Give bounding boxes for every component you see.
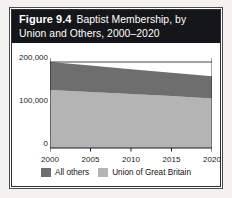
figure-inner-border: Figure 9.4Baptist Membership, by Union a… xyxy=(11,9,221,187)
figure-caption-line-2: Union and Others, 2000–2020 xyxy=(19,27,213,41)
figure-title-banner: Figure 9.4Baptist Membership, by Union a… xyxy=(12,10,220,43)
legend-swatch-icon-union-of-great-britain xyxy=(98,168,108,177)
x-tick-label-2015: 2015 xyxy=(157,155,187,164)
legend-item-all-others: All others xyxy=(41,168,89,177)
stacked-area-chart xyxy=(50,58,212,152)
y-tick-label-100000: 100,000 xyxy=(19,97,48,105)
y-tick-label-0: 0 xyxy=(44,140,48,148)
x-tick-label-2005: 2005 xyxy=(76,155,106,164)
x-tick-label-2010: 2010 xyxy=(116,155,146,164)
y-axis-labels: 200,000 100,000 0 xyxy=(12,43,48,186)
legend-label-all-others: All others xyxy=(55,168,89,177)
legend-swatch-icon-all-others xyxy=(41,168,51,177)
figure-title-line-1: Figure 9.4Baptist Membership, by xyxy=(19,13,213,27)
legend-item-union-of-great-britain: Union of Great Britain xyxy=(98,168,191,177)
x-tick-label-2000: 2000 xyxy=(35,155,65,164)
chart-panel: 200,000 100,000 0 xyxy=(12,43,220,186)
y-tick-label-200000: 200,000 xyxy=(19,54,48,62)
x-tick-label-2020: 2020 xyxy=(197,155,227,164)
figure-number: Figure 9.4 xyxy=(19,13,71,25)
figure-caption-line-1: Baptist Membership, by xyxy=(76,14,186,25)
plot-area: 2000 2005 2010 2015 2020 xyxy=(50,58,212,152)
chart-legend: All others Union of Great Britain xyxy=(12,168,220,177)
legend-label-union-of-great-britain: Union of Great Britain xyxy=(112,168,191,177)
area-union-of-great-britain xyxy=(50,90,212,148)
figure-container: Figure 9.4Baptist Membership, by Union a… xyxy=(9,7,223,189)
